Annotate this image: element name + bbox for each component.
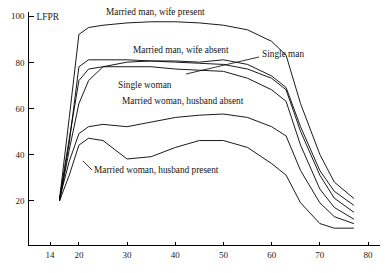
series-label-5: Married woman, husband present (94, 165, 219, 175)
x-axis-tick-label: 80 (364, 250, 374, 260)
series-line-3 (60, 67, 354, 219)
series-line-2 (60, 60, 354, 205)
series-label-3: Single woman (118, 80, 172, 90)
x-axis-tick-label: 14 (46, 250, 56, 260)
y-axis-tick-label: 60 (16, 104, 26, 114)
x-axis-tick-label: 50 (219, 250, 229, 260)
x-axis-tick-label: 20 (74, 250, 84, 260)
series-label-4: Married woman, husband absent (122, 96, 244, 106)
y-axis-tick-label: 100 (11, 11, 25, 21)
chart-canvas: 204060801001420304050607080LFPR Married … (0, 0, 388, 273)
y-axis-tick-label: 80 (16, 58, 26, 68)
annotation-leader-line-5 (83, 161, 92, 170)
series-label-0: Married man, wife present (106, 7, 205, 17)
y-axis-tick-label: 40 (16, 150, 26, 160)
lfpr-line-chart: 204060801001420304050607080LFPR Married … (0, 0, 388, 273)
y-axis-title: LFPR (37, 12, 60, 22)
series-line-1 (60, 60, 354, 212)
x-axis-tick-label: 40 (171, 250, 181, 260)
x-axis-tick-label: 60 (267, 250, 277, 260)
x-axis-tick-label: 70 (315, 250, 325, 260)
x-axis-tick-label: 30 (123, 250, 133, 260)
y-axis-tick-label: 20 (16, 196, 26, 206)
series-label-2: Single man (262, 49, 304, 59)
series-label-1: Married man, wife absent (133, 45, 229, 55)
series-annotations: Married man, wife presentMarried man, wi… (83, 7, 304, 175)
